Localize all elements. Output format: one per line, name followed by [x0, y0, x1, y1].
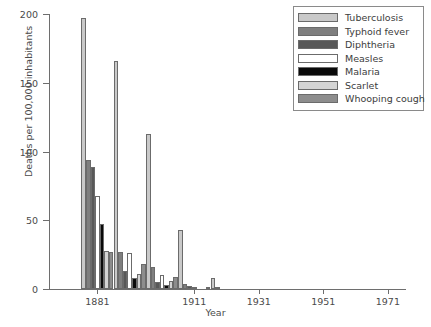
y-tick-label: 200	[20, 9, 38, 20]
legend: TuberculosisTyphoid feverDiphtheriaMeasl…	[293, 6, 424, 111]
legend-item-label: Whooping cough	[345, 93, 425, 104]
legend-item-label: Tuberculosis	[345, 12, 403, 23]
y-tick-label: 0	[32, 284, 38, 295]
legend-swatch-icon	[298, 54, 338, 63]
legend-item-label: Malaria	[345, 66, 380, 77]
x-axis-line	[49, 289, 406, 290]
legend-swatch-icon	[298, 13, 338, 22]
legend-item: Typhoid fever	[298, 25, 420, 38]
x-tick-label: 1971	[376, 296, 400, 307]
legend-item-label: Diphtheria	[345, 39, 395, 50]
y-tick-mark	[43, 289, 49, 290]
legend-item-label: Scarlet	[345, 80, 378, 91]
bar	[178, 230, 183, 289]
y-tick-label: 150	[20, 77, 38, 88]
legend-swatch-icon	[298, 94, 338, 103]
x-tick-label: 1911	[182, 296, 206, 307]
x-axis-title: Year	[0, 307, 431, 318]
y-tick-label: 50	[26, 215, 38, 226]
legend-item-label: Typhoid fever	[345, 26, 409, 37]
x-tick-mark	[323, 290, 324, 294]
legend-item: Scarlet	[298, 79, 420, 92]
legend-item: Tuberculosis	[298, 11, 420, 24]
bar	[206, 287, 211, 289]
legend-item: Malaria	[298, 65, 420, 78]
bar	[141, 264, 146, 289]
bar	[215, 287, 220, 289]
legend-item: Measles	[298, 52, 420, 65]
disease-mortality-bar-chart: Deaths per 100,000 inhabitants 050100150…	[0, 0, 431, 327]
legend-swatch-icon	[298, 81, 338, 90]
legend-item: Whooping cough	[298, 92, 420, 105]
bar	[173, 277, 178, 289]
x-tick-mark	[194, 290, 195, 294]
bar	[192, 287, 197, 289]
y-axis-title: Deaths per 100,000 inhabitants	[23, 2, 34, 202]
legend-swatch-icon	[298, 40, 338, 49]
legend-item-label: Measles	[345, 53, 383, 64]
legend-swatch-icon	[298, 67, 338, 76]
x-tick-mark	[97, 290, 98, 294]
x-tick-label: 1931	[247, 296, 271, 307]
x-tick-label: 1881	[85, 296, 109, 307]
x-tick-label: 1951	[311, 296, 335, 307]
legend-swatch-icon	[298, 27, 338, 36]
x-tick-mark	[388, 290, 389, 294]
legend-item: Diphtheria	[298, 38, 420, 51]
bar	[109, 252, 114, 289]
y-tick-label: 100	[20, 146, 38, 157]
x-tick-mark	[259, 290, 260, 294]
bar	[146, 134, 151, 289]
